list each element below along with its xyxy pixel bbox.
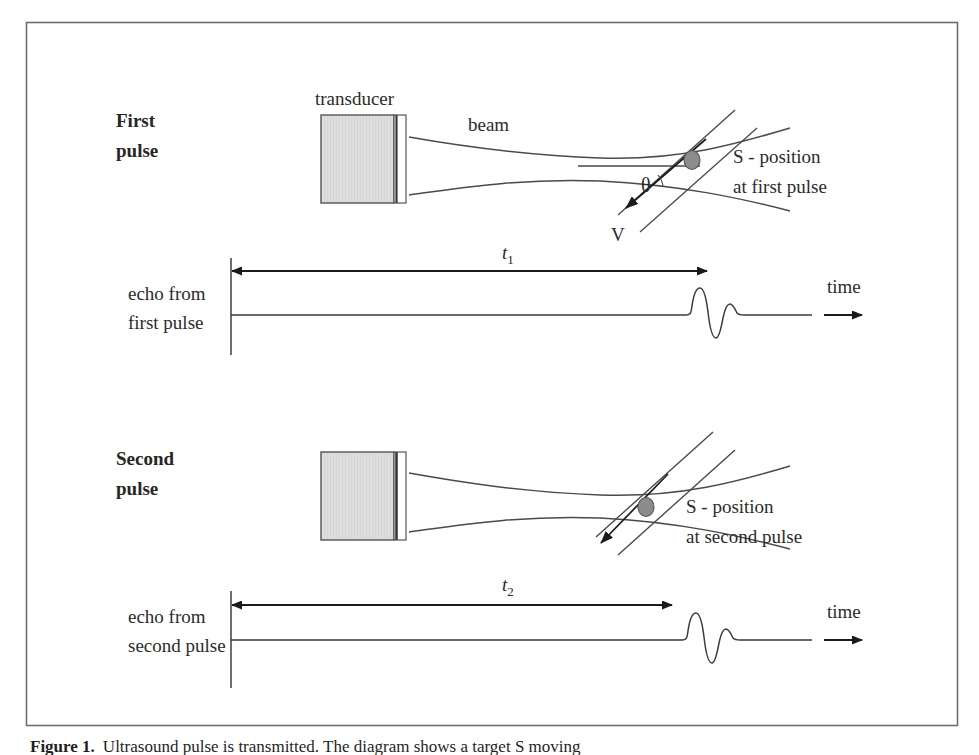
angle-theta-label-first: θ (641, 174, 651, 196)
echo-label-first-line1: echo from (128, 283, 206, 304)
figure-caption-number: Figure 1. (30, 737, 95, 755)
scatterer-label-first-line2: at first pulse (733, 176, 827, 197)
ultrasound-doppler-diagram: First pulse transducer beam θ V S - (0, 0, 979, 755)
echo-label-second-line1: echo from (128, 606, 206, 627)
echo-label-first-line2: first pulse (128, 312, 203, 333)
figure-caption-body: Ultrasound pulse is transmitted. The dia… (103, 737, 581, 755)
scatterer-label-first-line1: S - position (733, 146, 821, 167)
time-label-second: time (827, 601, 861, 622)
transducer-label: transducer (315, 88, 395, 109)
time-label-first: time (827, 276, 861, 297)
scatterer-label-second-line2: at second pulse (686, 526, 802, 547)
beam-label: beam (468, 114, 509, 135)
scatterer-label-second-line1: S - position (686, 496, 774, 517)
scatterer-second (638, 498, 654, 517)
velocity-label-first: V (611, 224, 625, 245)
second-pulse-section-label-line1: Second (116, 448, 175, 469)
transducer-body-first (321, 115, 394, 203)
figure-root: First pulse transducer beam θ V S - (0, 0, 979, 755)
first-pulse-section-label-line2: pulse (116, 140, 158, 161)
second-pulse-section-label-line2: pulse (116, 478, 158, 499)
figure-caption: Figure 1.Ultrasound pulse is transmitted… (30, 737, 581, 755)
echo-label-second-line2: second pulse (128, 635, 226, 656)
transducer-body-second (321, 452, 394, 540)
scatterer-first (684, 151, 700, 170)
first-pulse-section-label-line1: First (116, 110, 156, 131)
